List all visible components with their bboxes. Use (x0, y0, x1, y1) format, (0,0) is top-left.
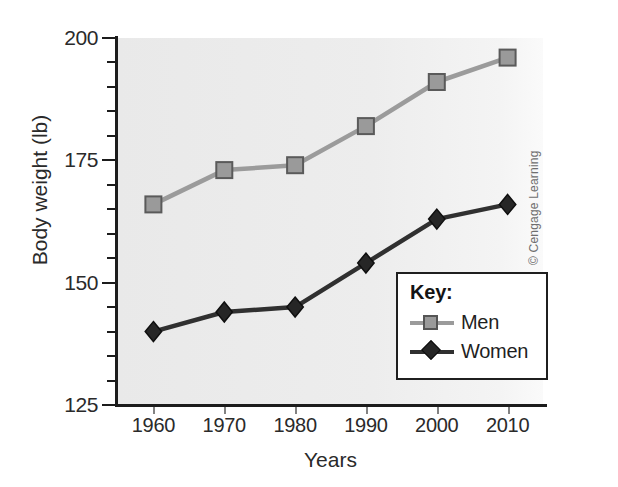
diamond-marker-icon (421, 340, 441, 360)
data-point-men (145, 196, 161, 212)
data-point-women (216, 302, 232, 322)
legend-label-women: Women (461, 341, 528, 361)
data-point-women (429, 209, 445, 229)
data-point-men (287, 157, 303, 173)
legend-entry-women: Women (410, 336, 546, 365)
series-line-men (153, 58, 507, 205)
data-point-women (287, 297, 303, 317)
square-marker-icon (423, 315, 438, 330)
legend-title: Key: (410, 281, 546, 304)
body-weight-line-chart: 125150175200 196019701980199020002010 Bo… (0, 0, 618, 487)
data-point-men (429, 74, 445, 90)
legend-box: Key: Men Women (396, 272, 548, 380)
copyright-credit: © Cengage Learning (527, 85, 541, 265)
data-point-men (216, 162, 232, 178)
data-series-layer (0, 0, 618, 487)
legend-label-men: Men (461, 312, 499, 332)
legend-entry-men: Men (410, 307, 546, 336)
men-series-swatch (410, 312, 454, 332)
women-series-swatch (410, 341, 454, 361)
data-point-women (499, 194, 515, 214)
data-point-women (145, 322, 161, 342)
data-point-men (500, 50, 516, 66)
data-point-women (358, 253, 374, 273)
data-point-men (358, 118, 374, 134)
